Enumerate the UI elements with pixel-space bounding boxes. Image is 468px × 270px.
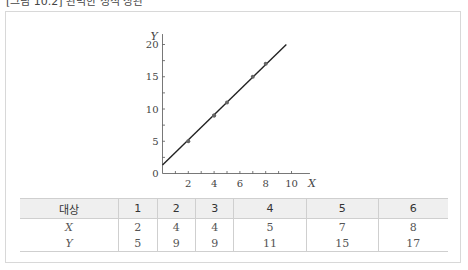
svg-text:10: 10: [146, 104, 159, 115]
table-cell: 5: [119, 235, 157, 252]
table-row-y: Y 5 9 9 11 15 17: [20, 235, 448, 252]
table-cell: 8: [378, 219, 448, 236]
regression-line: [163, 45, 287, 166]
table-cell: 9: [157, 235, 195, 252]
header-cell: 대상: [20, 199, 119, 219]
tick-labels: 24681005101520: [146, 39, 298, 189]
data-table: 대상 1 2 3 4 5 6 X 2 4 4 5 7 8 Y 5 9 9 11 …: [20, 198, 448, 252]
table-cell: 11: [234, 235, 306, 252]
svg-text:15: 15: [146, 71, 159, 82]
table-header-row: 대상 1 2 3 4 5 6: [20, 199, 448, 219]
scatter-chart: 24681005101520 X Y: [0, 0, 468, 200]
svg-text:8: 8: [263, 178, 269, 189]
row-label: X: [20, 219, 119, 236]
table-cell: 4: [196, 219, 234, 236]
table-cell: 17: [378, 235, 448, 252]
svg-text:4: 4: [211, 178, 217, 189]
table-cell: 4: [157, 219, 195, 236]
svg-text:0: 0: [152, 168, 158, 179]
header-cell: 3: [196, 199, 234, 219]
svg-text:10: 10: [285, 178, 298, 189]
table-cell: 15: [306, 235, 378, 252]
table-row-x: X 2 4 4 5 7 8: [20, 219, 448, 236]
table-cell: 9: [196, 235, 234, 252]
header-cell: 2: [157, 199, 195, 219]
header-cell: 6: [378, 199, 448, 219]
chart-axes: [163, 34, 310, 173]
table-cell: 5: [234, 219, 306, 236]
x-axis-label: X: [307, 177, 317, 190]
header-cell: 5: [306, 199, 378, 219]
svg-text:6: 6: [237, 178, 243, 189]
svg-text:2: 2: [185, 178, 191, 189]
header-cell: 1: [119, 199, 157, 219]
table-cell: 7: [306, 219, 378, 236]
row-label: Y: [20, 235, 119, 252]
header-cell: 4: [234, 199, 306, 219]
svg-text:5: 5: [152, 136, 158, 147]
table-cell: 2: [119, 219, 157, 236]
